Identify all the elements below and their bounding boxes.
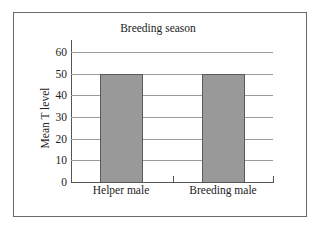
bar-helper-male — [100, 74, 143, 182]
x-axis-line — [71, 182, 274, 183]
y-tick-label-40: 40 — [56, 89, 68, 101]
chart-title: Breeding season — [0, 22, 316, 34]
plot-area: 0102030405060 — [71, 52, 274, 182]
gridline-60 — [71, 52, 273, 53]
bar-breeding-male — [202, 74, 245, 182]
y-tick-label-20: 20 — [56, 133, 68, 145]
y-axis-label: Mean T level — [39, 88, 51, 149]
x-tick-label-helper-male: Helper male — [93, 184, 150, 196]
x-axis-tick-end — [273, 176, 274, 182]
y-tick-label-50: 50 — [56, 68, 68, 80]
y-tick-label-0: 0 — [61, 176, 67, 188]
y-tick-label-60: 60 — [56, 46, 68, 58]
y-tick-label-10: 10 — [56, 154, 68, 166]
x-tick-label-breeding-male: Breeding male — [189, 184, 256, 196]
y-tick-label-30: 30 — [56, 111, 68, 123]
x-axis-tick-middle — [173, 176, 174, 182]
